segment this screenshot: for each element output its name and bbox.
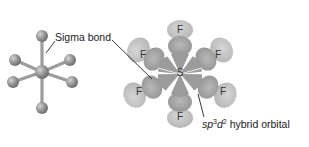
- ligand-ball-upper-right: [64, 54, 76, 66]
- hybrid-prefix: sp: [202, 118, 213, 130]
- ligand-ball-bottom: [36, 102, 48, 114]
- ligand-ball-lower-right: [66, 76, 78, 88]
- ligand-ball-lower-left: [7, 76, 19, 88]
- atom-label-f-upper-left: F: [140, 50, 146, 60]
- sigma-bond-leader-small: [46, 41, 55, 53]
- sf6-diagram: S F F F F F F Sigma bond sp3d2 hybrid or…: [0, 0, 309, 147]
- atom-label-f-bottom: F: [177, 112, 183, 122]
- ligand-ball-upper-left: [9, 54, 21, 66]
- atom-label-f-upper-right: F: [215, 50, 221, 60]
- atom-label-f-top: F: [177, 25, 183, 35]
- ligand-ball-top: [36, 30, 48, 42]
- sigma-bond-label: Sigma bond: [55, 32, 111, 43]
- central-ball: [35, 65, 49, 79]
- atom-label-f-lower-left: F: [136, 87, 142, 97]
- hybrid-orbital-label: sp3d2 hybrid orbital: [202, 119, 290, 130]
- atom-label-s: S: [177, 68, 184, 78]
- atom-label-f-lower-right: F: [220, 87, 226, 97]
- hybrid-suffix: hybrid orbital: [227, 118, 290, 130]
